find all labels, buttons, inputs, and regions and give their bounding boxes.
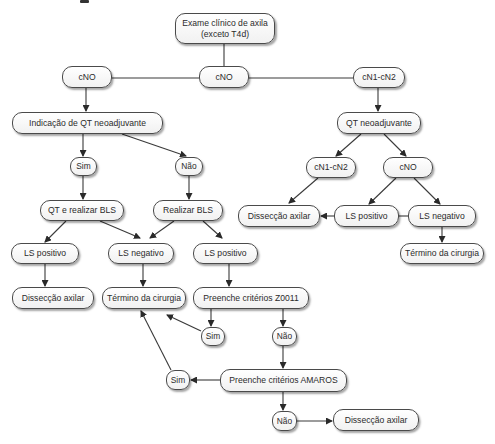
node-indicacao-qt: Indicação de QT neoadjuvante	[12, 112, 163, 134]
node-nao-z0011: Não	[272, 327, 297, 346]
node-ls-negativo-middle: LS negativo	[108, 243, 174, 264]
node-termino-cirurgia-right: Término da cirurgia	[400, 243, 484, 264]
node-exame-clinico: Exame clínico de axila (exceto T4d)	[175, 13, 275, 44]
node-cno-center: cNO	[199, 66, 249, 88]
node-preenche-amaros: Preenche critérios AMAROS	[220, 369, 347, 392]
node-preenche-z0011: Preenche critérios Z0011	[193, 287, 309, 309]
node-cn1-cn2-top: cN1-cN2	[353, 67, 405, 88]
node-ls-negativo-right: LS negativo	[408, 205, 476, 227]
flowchart-canvas: Exame clínico de axila (exceto T4d) cNO …	[0, 0, 495, 444]
node-disseccao-axilar-left: Dissecção axilar	[12, 287, 94, 309]
node-realizar-bls: Realizar BLS	[153, 200, 223, 221]
node-sim-z0011: Sim	[201, 327, 225, 346]
node-label-line1: Exame clínico de axila	[182, 18, 268, 29]
node-disseccao-axilar-right: Dissecção axilar	[238, 205, 320, 227]
node-nao-1: Não	[175, 157, 203, 176]
node-cn1-cn2-right: cN1-cN2	[306, 157, 356, 178]
node-nao-amaros: Não	[272, 411, 297, 431]
node-cno-right: cNO	[383, 157, 433, 178]
node-termino-cirurgia-middle: Término da cirurgia	[102, 287, 186, 309]
node-ls-positivo-left: LS positivo	[11, 243, 79, 264]
node-sim-amaros: Sim	[166, 370, 190, 390]
node-cno-left: cNO	[62, 66, 112, 88]
node-ls-positivo-right: LS positivo	[334, 205, 399, 227]
node-disseccao-axilar-bottom: Dissecção axilar	[333, 409, 419, 431]
node-label-line2: (exceto T4d)	[201, 29, 249, 40]
node-ls-positivo-middle: LS positivo	[193, 243, 258, 264]
node-sim-1: Sim	[70, 157, 97, 176]
node-qt-neoadjuvante: QT neoadjuvante	[337, 112, 421, 134]
node-qt-realizar-bls: QT e realizar BLS	[40, 200, 124, 221]
